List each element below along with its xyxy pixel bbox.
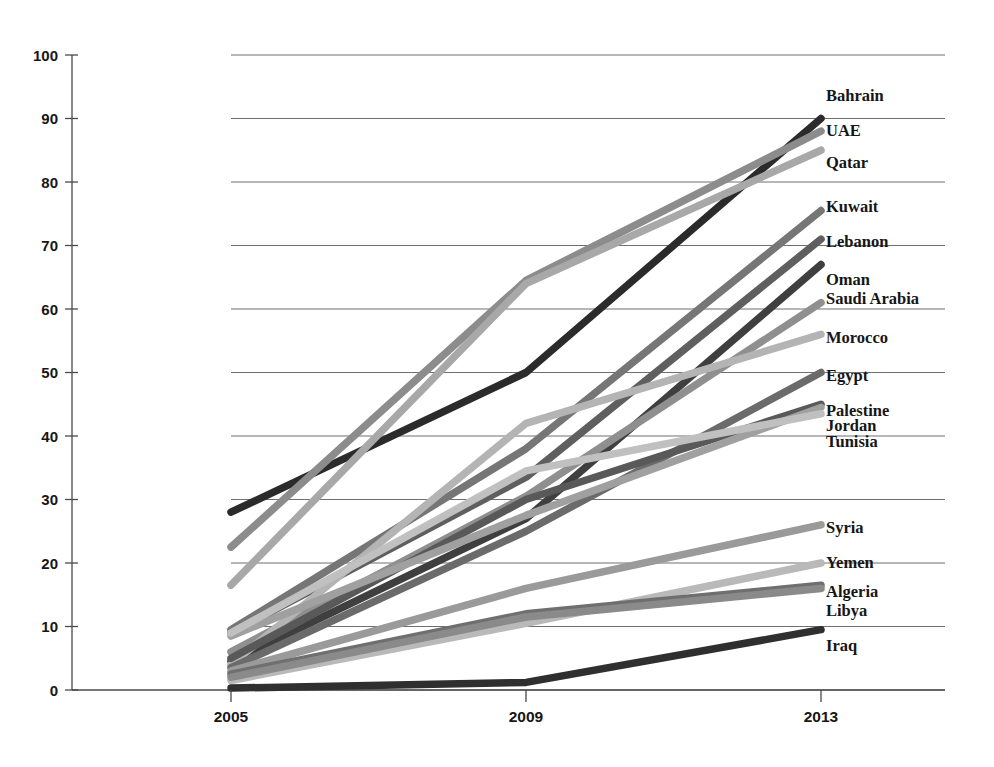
y-axis-tick-labels: 0102030405060708090100 <box>33 47 58 699</box>
y-tick-label-20: 20 <box>41 555 58 572</box>
series-label-tunisia: Tunisia <box>826 432 878 451</box>
y-tick-label-50: 50 <box>41 364 58 381</box>
y-tick-label-10: 10 <box>41 618 58 635</box>
y-tick-label-0: 0 <box>50 682 58 699</box>
y-tick-label-80: 80 <box>41 174 58 191</box>
y-tick-label-90: 90 <box>41 110 58 127</box>
line-chart: 0102030405060708090100 200520092013 Bahr… <box>0 0 994 767</box>
series-label-lebanon: Lebanon <box>826 232 888 251</box>
series-label-egypt: Egypt <box>826 366 869 385</box>
series-label-morocco: Morocco <box>826 328 888 347</box>
data-series-group <box>231 119 821 689</box>
series-label-saudi-arabia: Saudi Arabia <box>826 289 919 308</box>
x-tick-label-2009: 2009 <box>509 708 544 725</box>
y-tick-label-60: 60 <box>41 301 58 318</box>
y-tick-label-70: 70 <box>41 237 58 254</box>
series-label-bahrain: Bahrain <box>826 86 884 105</box>
y-tick-label-100: 100 <box>33 47 58 64</box>
x-tick-label-2013: 2013 <box>804 708 839 725</box>
x-tick-marks-group <box>231 690 821 702</box>
series-label-algeria: Algeria <box>826 582 878 601</box>
series-labels-group: BahrainUAEQatarKuwaitLebanonOmanSaudi Ar… <box>826 86 919 654</box>
series-label-kuwait: Kuwait <box>826 197 879 216</box>
y-tick-label-30: 30 <box>41 491 58 508</box>
series-label-oman: Oman <box>826 270 870 289</box>
series-label-syria: Syria <box>826 518 864 537</box>
y-tick-label-40: 40 <box>41 428 58 445</box>
series-label-libya: Libya <box>826 601 867 620</box>
series-label-uae: UAE <box>826 121 861 140</box>
x-tick-label-2005: 2005 <box>214 708 249 725</box>
series-label-qatar: Qatar <box>826 153 868 172</box>
figure-container: 0102030405060708090100 200520092013 Bahr… <box>0 0 994 767</box>
series-label-yemen: Yemen <box>826 553 874 572</box>
figure-caption <box>28 752 968 767</box>
series-label-iraq: Iraq <box>826 636 858 655</box>
x-axis-tick-labels: 200520092013 <box>214 708 839 725</box>
